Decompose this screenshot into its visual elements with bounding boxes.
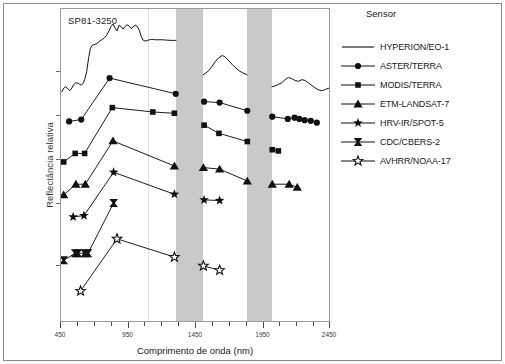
circle-marker-icon xyxy=(201,99,207,105)
xaxis-minor-tick xyxy=(229,322,230,326)
square-marker-icon xyxy=(245,139,251,145)
circle-marker-icon xyxy=(340,58,376,74)
bowtie-marker-icon xyxy=(340,134,376,150)
square-marker-icon xyxy=(276,148,282,154)
square-marker-icon xyxy=(110,105,116,111)
series-line xyxy=(272,77,329,90)
openstar-marker-icon xyxy=(199,261,209,270)
openstar-marker-icon xyxy=(353,156,363,165)
square-marker-icon xyxy=(61,159,67,165)
legend-item-label: HRV-IR/SPOT-5 xyxy=(380,118,444,128)
xaxis-title: Comprimento de onda (nm) xyxy=(60,345,330,356)
xaxis-minor-tick xyxy=(94,322,95,326)
triangle-marker-icon xyxy=(170,162,179,170)
circle-marker-icon xyxy=(217,99,223,105)
xaxis-tick-group xyxy=(60,322,330,330)
triangle-marker-icon xyxy=(268,180,277,188)
xaxis-minor-tick xyxy=(313,322,314,326)
xaxis-minor-tick xyxy=(144,322,145,326)
circle-marker-icon xyxy=(308,118,314,124)
legend-item-label: ETM-LANDSAT-7 xyxy=(380,99,449,109)
circle-marker-icon xyxy=(314,120,320,126)
triangle-marker-icon xyxy=(71,180,80,188)
star-marker-icon xyxy=(353,118,363,127)
star-marker-icon xyxy=(68,212,78,221)
figure-container: Reflectância relativa SP81-3250 45095014… xyxy=(0,0,505,364)
series-cdc-cbers-2 xyxy=(61,199,118,264)
circle-marker-icon xyxy=(78,116,84,122)
series-line xyxy=(203,168,247,182)
square-marker-icon xyxy=(340,77,376,93)
xaxis-tick-label: 950 xyxy=(122,331,133,338)
square-marker-icon xyxy=(355,82,361,88)
circle-marker-icon xyxy=(173,91,179,97)
legend-item-avhrr-noaa-17[interactable]: AVHRR/NOAA-17 xyxy=(340,151,500,170)
xaxis-major-tick xyxy=(195,322,196,328)
square-marker-icon xyxy=(216,131,222,137)
legend-rows: HYPERION/EO-1ASTER/TERRAMODIS/TERRAETM-L… xyxy=(340,37,500,170)
circle-marker-icon xyxy=(302,117,308,123)
xaxis-minor-tick xyxy=(212,322,213,326)
legend-item-cdc-cbers-2[interactable]: CDC/CBERS-2 xyxy=(340,132,500,151)
open-star-marker-icon xyxy=(340,153,376,169)
xaxis-major-tick xyxy=(128,322,129,328)
star-marker-icon xyxy=(199,195,209,204)
square-marker-icon xyxy=(172,110,178,116)
legend-item-aster-terra[interactable]: ASTER/TERRA xyxy=(340,56,500,75)
xaxis-minor-tick xyxy=(111,322,112,326)
legend-item-etm-landsat-7[interactable]: ETM-LANDSAT-7 xyxy=(340,94,500,113)
xaxis-tick-label: 1950 xyxy=(255,331,269,338)
triangle-marker-icon xyxy=(285,180,294,188)
square-marker-icon xyxy=(269,147,275,153)
circle-marker-icon xyxy=(244,108,250,114)
openstar-marker-icon xyxy=(76,286,86,295)
star-marker-icon xyxy=(340,115,376,131)
circle-marker-icon xyxy=(107,75,113,81)
circle-marker-icon xyxy=(66,118,72,124)
legend-item-modis-terra[interactable]: MODIS/TERRA xyxy=(340,75,500,94)
legend-item-label: MODIS/TERRA xyxy=(380,80,441,90)
xaxis-minor-tick xyxy=(178,322,179,326)
xaxis-minor-tick xyxy=(161,322,162,326)
legend-item-label: CDC/CBERS-2 xyxy=(380,137,440,147)
star-marker-icon xyxy=(79,211,89,220)
openstar-marker-icon xyxy=(170,252,180,261)
series-line xyxy=(204,102,247,111)
xaxis-minor-tick xyxy=(279,322,280,326)
circle-marker-icon xyxy=(285,116,291,122)
legend-title: Sensor xyxy=(340,8,500,19)
triangle-marker-icon xyxy=(293,183,302,191)
square-marker-icon xyxy=(201,122,207,128)
series-line xyxy=(203,55,248,74)
circle-marker-icon xyxy=(355,62,361,68)
xaxis-minor-tick xyxy=(296,322,297,326)
legend-item-hyperion-eo-1[interactable]: HYPERION/EO-1 xyxy=(340,37,500,56)
xaxis-tick-label: 2450 xyxy=(322,331,336,338)
circle-marker-icon xyxy=(269,114,275,120)
xaxis-major-tick xyxy=(263,322,264,328)
series-line xyxy=(64,108,175,162)
star-marker-icon xyxy=(215,196,225,205)
openstar-marker-icon xyxy=(112,234,122,243)
plot-area: SP81-3250 xyxy=(60,8,330,322)
xaxis-major-tick xyxy=(329,322,330,328)
bowtie-marker-icon xyxy=(109,199,118,207)
line-swatch-icon xyxy=(340,39,376,55)
triangle-marker-icon xyxy=(340,96,376,112)
circle-marker-icon xyxy=(296,116,302,122)
series-line xyxy=(64,141,175,195)
series-etm-landsat-7 xyxy=(61,136,302,198)
legend-item-hrv-ir-spot-5[interactable]: HRV-IR/SPOT-5 xyxy=(340,113,500,132)
xaxis-minor-tick xyxy=(246,322,247,326)
square-marker-icon xyxy=(82,151,88,157)
star-marker-icon xyxy=(170,189,180,198)
square-marker-icon xyxy=(150,109,156,115)
xaxis-major-tick xyxy=(60,322,61,328)
data-curves-svg xyxy=(61,9,330,322)
series-line xyxy=(81,239,175,291)
series-hrv-ir-spot-5 xyxy=(68,167,224,221)
series-line xyxy=(69,78,176,121)
legend-item-label: HYPERION/EO-1 xyxy=(380,42,449,52)
xaxis-label-group: 450950145019502450 xyxy=(60,331,330,343)
star-marker-icon xyxy=(109,167,119,176)
